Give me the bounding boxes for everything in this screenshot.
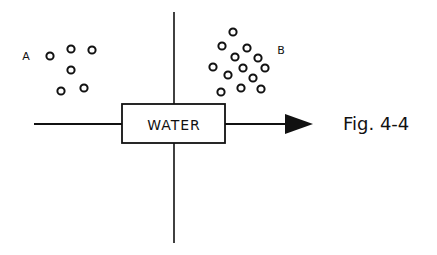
particle-circle-icon — [57, 87, 64, 94]
particle-circle-icon — [249, 74, 256, 81]
water-box-label: WATER — [147, 117, 201, 133]
particle-circle-icon — [243, 44, 250, 51]
particle-circle-icon — [217, 88, 224, 95]
group-a-label: A — [22, 50, 30, 63]
particle-circle-icon — [239, 64, 246, 71]
particle-circle-icon — [261, 64, 268, 71]
particle-circle-icon — [67, 45, 74, 52]
figure-caption: Fig. 4-4 — [343, 113, 409, 134]
group-a-particles — [46, 45, 95, 94]
particle-circle-icon — [80, 84, 87, 91]
particle-circle-icon — [229, 28, 236, 35]
particle-circle-icon — [254, 54, 261, 61]
particle-circle-icon — [88, 46, 95, 53]
particle-circle-icon — [237, 84, 244, 91]
particle-circle-icon — [46, 52, 53, 59]
particle-circle-icon — [209, 63, 216, 70]
particle-circle-icon — [67, 66, 74, 73]
arrow-head-icon — [285, 114, 313, 134]
particle-circle-icon — [231, 53, 238, 60]
particle-circle-icon — [224, 71, 231, 78]
particle-circle-icon — [257, 85, 264, 92]
group-b-particles — [209, 28, 268, 95]
diagram-canvas: WATER A B Fig. 4-4 — [0, 0, 437, 255]
group-b-label: B — [277, 44, 285, 57]
particle-circle-icon — [218, 42, 225, 49]
